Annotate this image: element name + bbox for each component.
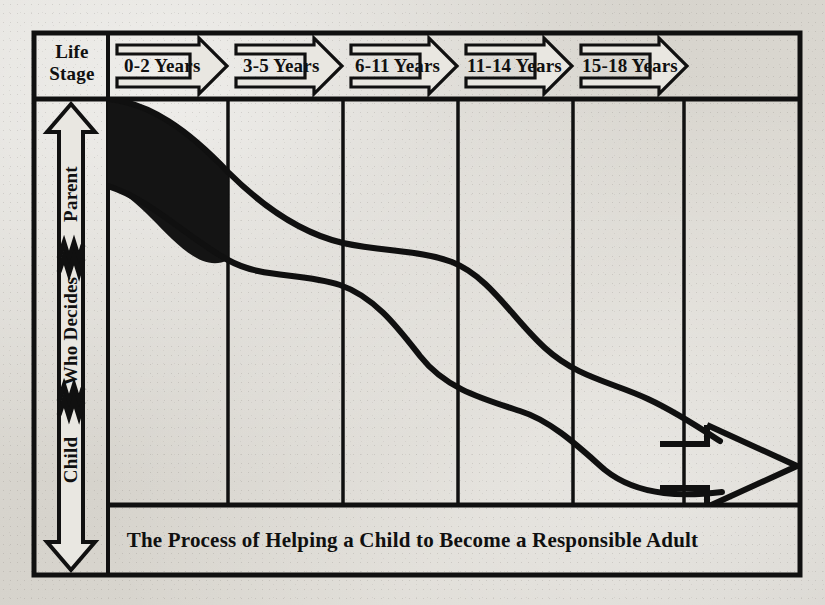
diagram-canvas xyxy=(0,0,825,605)
stage-label-3-5-years[interactable]: 3-5 Years xyxy=(243,55,320,77)
axis-label-child: Child xyxy=(60,420,82,500)
stage-label-15-18-years[interactable]: 15-18 Years xyxy=(582,55,678,77)
axis-label-who-decides: Who Decides xyxy=(60,266,82,396)
stage-dividers xyxy=(228,99,684,505)
life-stage-header-line2: Stage xyxy=(40,64,104,84)
parent-authority-band-filled xyxy=(108,99,343,268)
stage-label-6-11-years[interactable]: 6-11 Years xyxy=(355,55,440,77)
figure-root: Life Stage 0-2 Years 3-5 Years 6-11 Year… xyxy=(0,0,825,605)
axis-label-parent: Parent xyxy=(60,148,82,240)
life-stage-header-line1: Life xyxy=(40,42,104,62)
figure-caption: The Process of Helping a Child to Become… xyxy=(0,528,825,553)
stage-label-11-14-years[interactable]: 11-14 Years xyxy=(467,55,562,77)
stage-label-0-2-years[interactable]: 0-2 Years xyxy=(124,55,201,77)
band-terminal-arrowhead xyxy=(713,424,790,508)
